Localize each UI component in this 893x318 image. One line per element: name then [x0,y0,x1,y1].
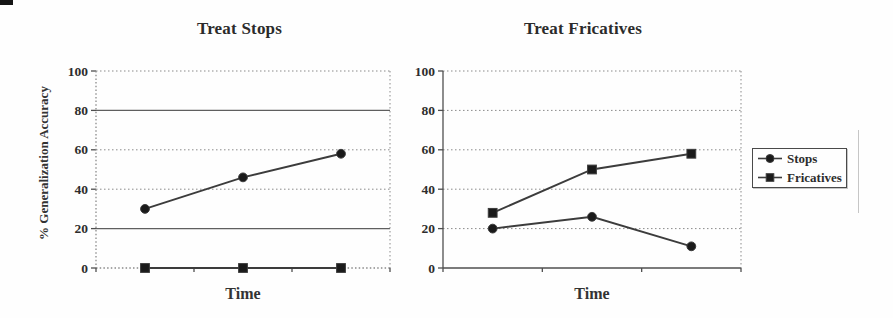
svg-text:20: 20 [422,221,436,236]
svg-text:100: 100 [415,64,436,79]
svg-text:0: 0 [81,261,88,276]
legend-label-fricatives: Fricatives [787,170,842,186]
legend-label-stops: Stops [787,151,817,167]
chart-title-treat-fricatives: Treat Fricatives [425,19,741,39]
plot-area-treat-fricatives: 020406080100 [396,64,746,279]
scan-artifact-line [858,130,859,213]
scan-artifact-mark [0,0,13,5]
svg-text:40: 40 [75,182,89,197]
x-axis-title-treat-stops: Time [96,285,390,303]
svg-text:20: 20 [75,221,89,236]
figure-canvas: Treat Stops % Generalization Accuracy 02… [0,0,893,318]
legend-item-fricatives: Fricatives [757,169,846,187]
legend: Stops Fricatives [752,148,847,188]
fricatives-square-marker-icon [757,172,783,183]
stops-circle-marker-icon [757,153,783,164]
svg-text:60: 60 [422,142,436,157]
svg-text:0: 0 [428,261,435,276]
chart-title-treat-stops: Treat Stops [86,19,393,39]
svg-text:100: 100 [68,64,89,79]
svg-text:40: 40 [422,182,436,197]
svg-text:80: 80 [75,103,89,118]
svg-text:60: 60 [75,142,89,157]
x-axis-title-treat-fricatives: Time [443,285,741,303]
plot-area-treat-stops: 020406080100 [49,64,399,279]
svg-text:80: 80 [422,103,436,118]
legend-item-stops: Stops [757,150,846,168]
